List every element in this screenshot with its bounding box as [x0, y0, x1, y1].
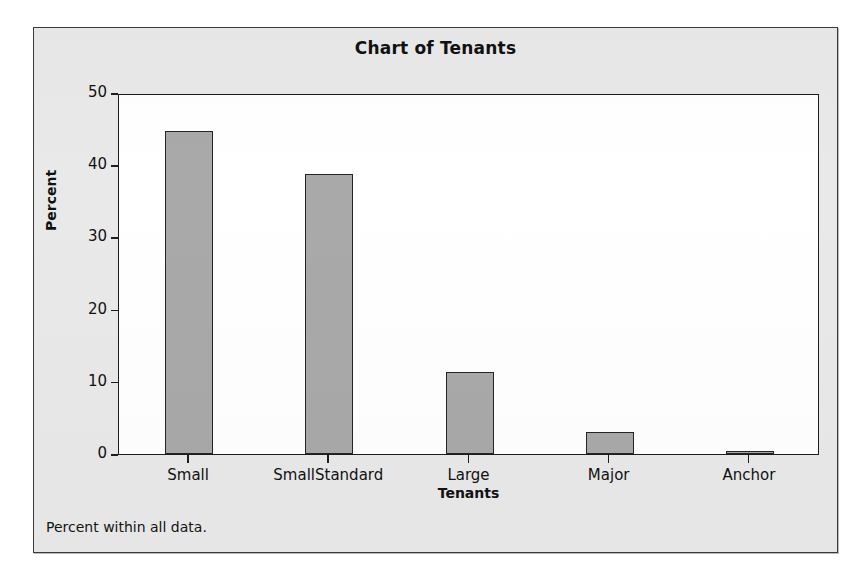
- y-tick-label: 30: [88, 227, 107, 245]
- y-tick-mark: [111, 310, 118, 312]
- x-tick-label: SmallStandard: [273, 466, 383, 484]
- y-tick-mark: [111, 382, 118, 384]
- bar-large: [446, 372, 494, 454]
- x-tick-mark: [608, 455, 610, 463]
- x-tick-label: Anchor: [722, 466, 775, 484]
- plot-area: [118, 94, 819, 455]
- bar-anchor: [726, 451, 774, 454]
- y-axis-title: Percent: [43, 170, 59, 231]
- chart-screenshot: Chart of Tenants Percent 01020304050 Sma…: [0, 0, 865, 584]
- y-tick-mark: [111, 165, 118, 167]
- y-tick-mark: [111, 237, 118, 239]
- chart-panel: Chart of Tenants Percent 01020304050 Sma…: [33, 27, 838, 553]
- bar-smallstandard: [305, 174, 353, 454]
- y-tick-mark: [111, 93, 118, 95]
- x-tick-mark: [748, 455, 750, 463]
- x-tick-label: Major: [588, 466, 630, 484]
- x-tick-mark: [468, 455, 470, 463]
- x-tick-label: Large: [447, 466, 489, 484]
- bar-major: [586, 432, 634, 454]
- x-tick-label: Small: [167, 466, 209, 484]
- y-tick-label: 20: [88, 300, 107, 318]
- x-tick-mark: [327, 455, 329, 463]
- y-axis: 01020304050: [68, 94, 118, 455]
- x-axis-title: Tenants: [118, 485, 819, 501]
- y-tick-label: 50: [88, 83, 107, 101]
- y-tick-label: 10: [88, 372, 107, 390]
- y-tick-mark: [111, 454, 118, 456]
- chart-footnote: Percent within all data.: [46, 519, 207, 535]
- chart-title: Chart of Tenants: [34, 38, 837, 58]
- bars-layer: [119, 95, 818, 454]
- y-tick-label: 0: [97, 444, 107, 462]
- bar-small: [165, 131, 213, 454]
- y-tick-label: 40: [88, 155, 107, 173]
- x-tick-mark: [187, 455, 189, 463]
